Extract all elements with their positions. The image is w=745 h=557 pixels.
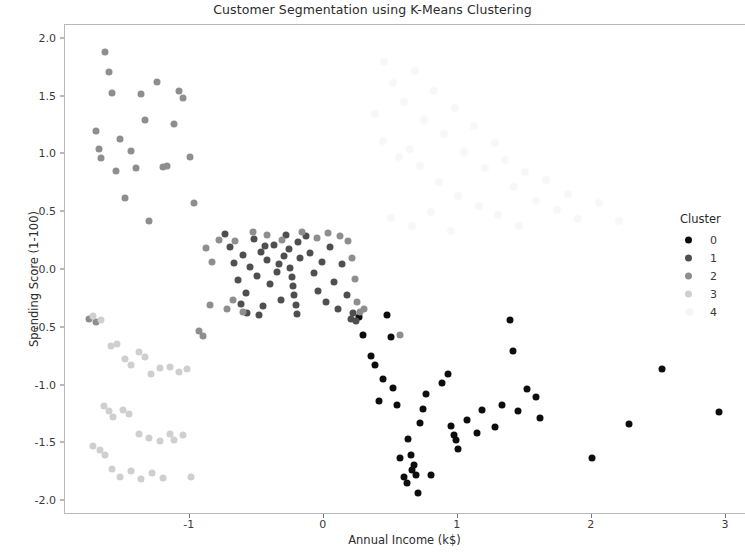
scatter-point xyxy=(408,222,417,231)
y-tick-mark xyxy=(60,269,64,270)
scatter-point xyxy=(175,368,182,375)
scatter-point xyxy=(532,394,539,401)
scatter-point xyxy=(380,57,389,66)
scatter-point xyxy=(524,386,531,393)
x-axis-label: Annual Income (k$) xyxy=(64,533,745,547)
legend-entry: 3 xyxy=(676,285,742,303)
scatter-point xyxy=(299,228,306,235)
scatter-point xyxy=(319,258,326,265)
scatter-point xyxy=(454,446,461,453)
scatter-point xyxy=(264,232,271,239)
scatter-point xyxy=(492,424,499,431)
scatter-point xyxy=(435,178,444,187)
scatter-point xyxy=(279,236,286,243)
scatter-point xyxy=(440,129,449,138)
y-tick-label: 0.5 xyxy=(18,205,56,218)
scatter-point xyxy=(478,406,485,413)
scatter-point xyxy=(419,405,426,412)
scatter-point xyxy=(261,242,268,249)
scatter-point xyxy=(157,365,164,372)
scatter-point xyxy=(426,208,435,217)
scatter-point xyxy=(397,331,404,338)
legend-entry-label: 1 xyxy=(710,252,717,265)
scatter-point xyxy=(127,147,134,154)
x-tick-mark xyxy=(323,514,324,518)
scatter-point xyxy=(163,162,170,169)
scatter-point xyxy=(253,272,260,279)
scatter-point xyxy=(246,263,253,270)
scatter-point xyxy=(410,67,419,76)
legend-title: Cluster xyxy=(680,212,742,226)
legend: Cluster 01234 xyxy=(676,212,742,321)
scatter-point xyxy=(379,375,386,382)
scatter-point xyxy=(464,417,471,424)
scatter-point xyxy=(188,473,195,480)
scatter-point xyxy=(159,475,166,482)
legend-marker-icon xyxy=(685,291,692,298)
scatter-point xyxy=(563,189,572,198)
scatter-point xyxy=(280,253,287,260)
scatter-point xyxy=(370,109,379,118)
scatter-point xyxy=(311,270,318,277)
scatter-point xyxy=(336,233,343,240)
scatter-point xyxy=(343,292,350,299)
y-tick-label: 1.0 xyxy=(18,147,56,160)
scatter-point xyxy=(324,230,331,237)
scatter-point xyxy=(186,153,193,160)
legend-marker-icon xyxy=(685,308,694,317)
y-tick-label: -1.5 xyxy=(18,436,56,449)
x-tick-label: -1 xyxy=(169,518,209,531)
scatter-point xyxy=(515,222,524,231)
y-tick-mark xyxy=(60,95,64,96)
y-tick-mark xyxy=(60,211,64,212)
y-axis-label: Spending Score (1-100) xyxy=(27,149,41,409)
scatter-point xyxy=(438,380,445,387)
scatter-point xyxy=(200,332,207,339)
scatter-point xyxy=(237,300,244,307)
x-tick-label: 1 xyxy=(437,518,477,531)
y-tick-label: -2.0 xyxy=(18,494,56,507)
scatter-point xyxy=(531,196,540,205)
y-tick-mark xyxy=(60,384,64,385)
legend-marker-icon xyxy=(685,273,692,280)
scatter-point xyxy=(98,154,105,161)
y-tick-mark xyxy=(60,326,64,327)
y-tick-label: -0.5 xyxy=(18,320,56,333)
scatter-point xyxy=(405,435,412,442)
y-tick-mark xyxy=(60,37,64,38)
chart-canvas: Customer Segmentation using K-Means Clus… xyxy=(0,0,745,557)
scatter-point xyxy=(394,402,401,409)
scatter-point xyxy=(146,218,153,225)
x-tick-mark xyxy=(591,514,592,518)
scatter-point xyxy=(102,48,109,55)
scatter-point xyxy=(98,316,105,323)
scatter-point xyxy=(226,243,233,250)
legend-entry: 4 xyxy=(676,303,742,321)
scatter-point xyxy=(542,175,551,184)
scatter-point xyxy=(594,198,603,207)
scatter-point xyxy=(383,312,390,319)
scatter-point xyxy=(116,136,123,143)
scatter-point xyxy=(170,121,177,128)
y-tick-label: -1.0 xyxy=(18,378,56,391)
scatter-point xyxy=(240,251,247,258)
scatter-point xyxy=(422,390,429,397)
scatter-point xyxy=(407,451,414,458)
scatter-point xyxy=(460,148,469,157)
scatter-point xyxy=(420,115,429,124)
scatter-point xyxy=(296,255,303,262)
legend-entry: 0 xyxy=(676,231,742,249)
scatter-point xyxy=(400,98,409,107)
scatter-point xyxy=(288,273,295,280)
scatter-point xyxy=(209,258,216,265)
scatter-point xyxy=(291,292,298,299)
scatter-point xyxy=(287,264,294,271)
scatter-point xyxy=(448,423,455,430)
scatter-point xyxy=(510,182,519,191)
scatter-point xyxy=(108,90,115,97)
scatter-point xyxy=(142,116,149,123)
scatter-point xyxy=(216,236,223,243)
y-tick-mark xyxy=(60,500,64,501)
scatter-point xyxy=(375,397,382,404)
scatter-point xyxy=(371,361,378,368)
